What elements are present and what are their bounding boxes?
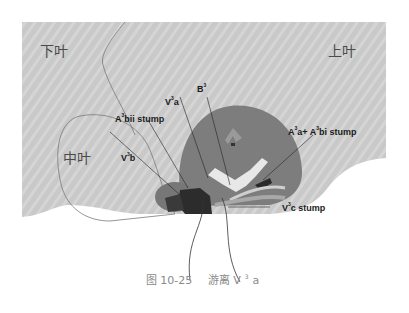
anatomy-figure: 下叶 上叶 中叶 V3a B3 A3bii stump A3a+ A3bi st…: [0, 0, 409, 313]
label-lower-lobe: 下叶: [40, 40, 68, 60]
label-v3a: V3a: [165, 95, 179, 107]
figure-number: 图 10-25: [146, 274, 192, 287]
label-v3c-stump: V3c stump: [282, 201, 325, 213]
label-middle-lobe: 中叶: [63, 147, 91, 167]
bronchus-marker: [231, 143, 235, 146]
label-upper-lobe: 上叶: [328, 40, 356, 60]
figure-caption: 图 10-25 游离 V3a: [0, 271, 409, 287]
label-a3bii-stump: A3bii stump: [115, 112, 164, 124]
label-v3b: V3b: [121, 151, 135, 163]
label-a3a-a3bi-stump: A3a+ A3bi stump: [288, 125, 357, 137]
label-b3: B3: [197, 82, 206, 94]
figure-title: 游离 V3a: [204, 274, 264, 287]
